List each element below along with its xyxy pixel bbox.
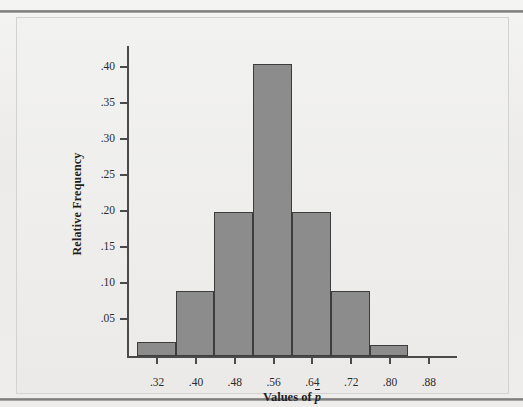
y-axis-line bbox=[127, 46, 129, 358]
x-axis-title: Values of p bbox=[263, 390, 321, 405]
x-tick: .40 bbox=[195, 358, 197, 364]
x-tick: .72 bbox=[350, 358, 352, 364]
histogram-bar bbox=[253, 64, 292, 356]
histogram-bar bbox=[370, 345, 409, 356]
x-tick: .48 bbox=[234, 358, 236, 364]
x-tick-label: .48 bbox=[228, 376, 242, 388]
y-tick: .40 bbox=[120, 66, 127, 68]
y-tick: .35 bbox=[120, 102, 127, 104]
x-tick-label: .88 bbox=[422, 376, 436, 388]
x-tick: .88 bbox=[428, 358, 430, 364]
y-axis-title: Relative Frequency bbox=[70, 152, 85, 255]
histogram-bar bbox=[176, 291, 215, 356]
y-tick: .05 bbox=[120, 318, 127, 320]
x-tick-label: .40 bbox=[189, 376, 203, 388]
histogram-bar bbox=[214, 212, 253, 356]
x-tick: .56 bbox=[273, 358, 275, 364]
x-tick-label: .72 bbox=[344, 376, 358, 388]
plot-area: .05.10.15.20.25.30.35.40 .32.40.48.56.64… bbox=[127, 46, 457, 358]
histogram-bar bbox=[137, 342, 176, 356]
chart-frame: Relative Frequency Values of p .05.10.15… bbox=[16, 17, 509, 394]
y-tick: .30 bbox=[120, 138, 127, 140]
histogram-bar bbox=[292, 212, 331, 356]
y-tick: .20 bbox=[120, 210, 127, 212]
histogram-bar bbox=[331, 291, 370, 356]
x-tick-label: .64 bbox=[305, 376, 319, 388]
x-tick: .32 bbox=[156, 358, 158, 364]
y-tick: .25 bbox=[120, 174, 127, 176]
x-tick: .64 bbox=[311, 358, 313, 364]
y-tick: .10 bbox=[120, 282, 127, 284]
y-tick-label: .15 bbox=[101, 240, 115, 252]
y-tick-label: .40 bbox=[101, 59, 115, 71]
x-tick-label: .56 bbox=[266, 376, 280, 388]
y-tick-label: .35 bbox=[101, 95, 115, 107]
x-axis-title-symbol: p bbox=[315, 390, 321, 405]
y-tick-label: .10 bbox=[101, 276, 115, 288]
y-tick: .15 bbox=[120, 246, 127, 248]
x-tick-label: .32 bbox=[150, 376, 164, 388]
x-tick-label: .80 bbox=[383, 376, 397, 388]
x-tick: .80 bbox=[389, 358, 391, 364]
y-tick-label: .20 bbox=[101, 204, 115, 216]
x-axis-title-text: Values of bbox=[263, 390, 315, 404]
y-tick-label: .05 bbox=[101, 312, 115, 324]
y-tick-label: .30 bbox=[101, 131, 115, 143]
top-divider-rule bbox=[0, 10, 523, 13]
bottom-divider-rule bbox=[0, 398, 523, 401]
partial-caption bbox=[96, 0, 336, 7]
y-tick-label: .25 bbox=[101, 168, 115, 180]
x-axis-line bbox=[127, 356, 457, 358]
